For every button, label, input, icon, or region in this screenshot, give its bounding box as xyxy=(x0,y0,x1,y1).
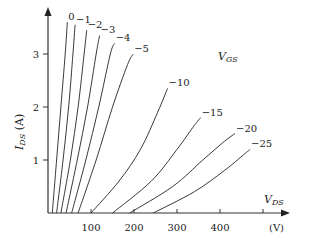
y-tick-label: 2 xyxy=(33,102,39,113)
x-axis-arrow-icon xyxy=(281,210,290,217)
curve-vgs-neg25 xyxy=(153,149,250,213)
y-tick-label: 3 xyxy=(33,49,39,60)
y-ticks-group: 123 xyxy=(33,49,48,166)
curve-label: −15 xyxy=(202,107,223,118)
x-axis-title: VDS xyxy=(264,193,284,207)
curve-vgs-neg20 xyxy=(130,134,235,214)
curve-vgs-neg5 xyxy=(78,54,133,213)
curve-label: 0 xyxy=(68,11,74,22)
curve-label: −20 xyxy=(236,123,257,134)
curve-vgs-neg10 xyxy=(91,88,168,213)
curve-vgs-neg15 xyxy=(113,118,201,213)
curve-vgs-neg4 xyxy=(72,43,115,213)
curve-label: −4 xyxy=(116,32,131,43)
y-axis-title: IDS (A) xyxy=(13,114,27,151)
curve-label: −3 xyxy=(101,24,116,35)
x-tick-label: 100 xyxy=(81,222,100,233)
curve-label: −10 xyxy=(169,77,190,88)
curve-label: −25 xyxy=(251,138,272,149)
curve-label: −5 xyxy=(134,43,149,54)
y-tick-label: 1 xyxy=(33,155,39,166)
x-tick-label: 400 xyxy=(210,222,229,233)
x-tick-label: 200 xyxy=(124,222,143,233)
x-tick-label: 300 xyxy=(167,222,186,233)
x-axis-unit: (V) xyxy=(269,222,284,233)
y-axis-arrow-icon xyxy=(45,7,52,16)
legend-title: VGS xyxy=(218,50,238,64)
curve-labels-group: 0−1−2−3−4−5−10−15−20−25 xyxy=(68,11,272,149)
iv-characteristic-chart: 0−1−2−3−4−5−10−15−20−25 100200300400 123… xyxy=(0,0,309,246)
